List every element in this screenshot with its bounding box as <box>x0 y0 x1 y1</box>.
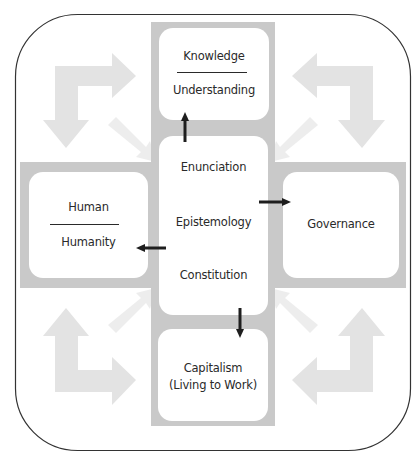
understanding-label: Understanding <box>159 83 269 97</box>
epistemology-label: Epistemology <box>159 215 268 229</box>
enunciation-label: Enunciation <box>159 160 268 174</box>
diagram-canvas: Knowledge Understanding Enunciation Epis… <box>0 0 419 463</box>
box-capitalism <box>158 329 268 421</box>
human-label: Human <box>29 200 148 214</box>
diagram-graphics <box>0 0 419 463</box>
living-to-work-label: (Living to Work) <box>158 378 268 392</box>
humanity-label: Humanity <box>29 235 148 249</box>
constitution-label: Constitution <box>159 268 268 282</box>
knowledge-label: Knowledge <box>159 49 269 63</box>
box-human <box>29 172 148 278</box>
governance-label: Governance <box>283 217 399 231</box>
human-divider <box>50 224 119 225</box>
knowledge-divider <box>177 72 247 73</box>
box-knowledge <box>159 28 269 120</box>
capitalism-label: Capitalism <box>158 361 268 375</box>
